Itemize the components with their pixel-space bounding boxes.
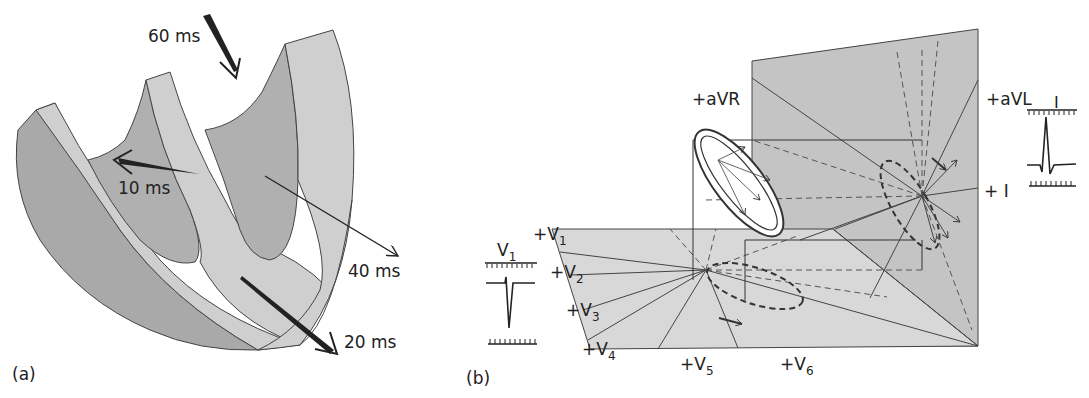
ecg-trace-lead-i: I — [1027, 93, 1077, 186]
label-avl: +aVL — [986, 89, 1032, 109]
label-60ms: 60 ms — [148, 26, 201, 46]
label-v5: +V5 — [680, 354, 714, 378]
label-lead-i: + I — [984, 181, 1009, 201]
label-v1: +V1 — [533, 224, 567, 248]
panel-b-vectorcardiogram: +aVR +aVL + I +V1 +V2 +V3 +V4 +V5 +V6 (b… — [466, 29, 1077, 388]
arrow-60ms — [203, 14, 240, 78]
ecg-trace-v1: V1 — [485, 240, 537, 344]
label-40ms: 40 ms — [348, 261, 401, 281]
panel-a-label: (a) — [12, 364, 36, 384]
label-avr: +aVR — [692, 89, 740, 109]
svg-text:I: I — [1054, 93, 1059, 112]
label-v6: +V6 — [780, 354, 814, 378]
panel-b-label: (b) — [466, 368, 490, 388]
label-20ms: 20 ms — [344, 332, 397, 352]
label-10ms: 10 ms — [118, 178, 171, 198]
panel-a-heart-diagram: 60 ms 10 ms 40 ms 20 ms (a) — [12, 14, 401, 384]
svg-text:V1: V1 — [497, 240, 516, 264]
figure: 60 ms 10 ms 40 ms 20 ms (a) — [0, 0, 1089, 398]
